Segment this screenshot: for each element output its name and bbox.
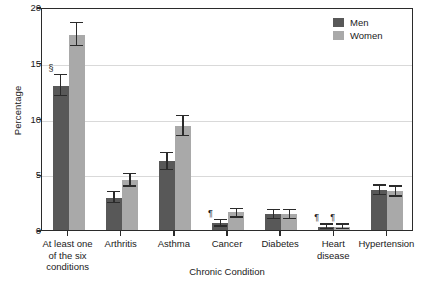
error-bar-cap-bottom: [176, 135, 189, 136]
bar-women[interactable]: [122, 180, 138, 230]
error-bar-cap-bottom: [373, 194, 386, 195]
error-bar-cap-bottom: [320, 228, 333, 229]
error-bar-cap-bottom: [389, 195, 402, 196]
bar-group: §: [53, 7, 85, 230]
legend-swatch-men-icon: [333, 18, 344, 27]
legend-swatch-women-icon: [333, 31, 344, 40]
error-bar-line: [182, 115, 183, 136]
footnote-marker: ¶: [208, 209, 213, 218]
error-bar-cap-bottom: [336, 228, 349, 229]
bar-men[interactable]: [53, 86, 69, 230]
x-category-label: Arthritis: [90, 238, 151, 250]
error-bar-cap-bottom: [214, 225, 227, 226]
bar-women[interactable]: [69, 35, 85, 230]
error-bar: [70, 22, 83, 47]
footnote-marker: §: [49, 64, 54, 73]
x-category-label: Cancer: [196, 238, 257, 250]
error-bar: [283, 209, 296, 219]
bar-group: ¶: [212, 7, 244, 230]
legend-label-women: Women: [350, 30, 383, 41]
bar-group: [106, 7, 138, 230]
error-bar: [123, 173, 136, 186]
bar-men[interactable]: [371, 190, 387, 230]
bar-chart-figure: Percentage 05101520 §¶¶¶ Chronic Conditi…: [0, 0, 426, 288]
x-tick-mark: [279, 231, 280, 236]
y-axis-tick-labels: 05101520: [0, 0, 41, 288]
y-tick-mark: [37, 175, 42, 176]
y-tick-mark: [37, 230, 42, 231]
x-tick-mark: [333, 231, 334, 236]
error-bar-cap-bottom: [70, 45, 83, 46]
y-tick-mark: [37, 63, 42, 64]
x-category-label: Hypertension: [356, 238, 417, 250]
legend-item-men[interactable]: Men: [333, 16, 383, 29]
error-bar-cap-bottom: [54, 95, 67, 96]
error-bar-cap-bottom: [160, 169, 173, 170]
chart-legend: Men Women: [333, 16, 383, 42]
error-bar: [267, 209, 280, 219]
bar-women[interactable]: [387, 191, 403, 230]
error-bar: [107, 191, 120, 203]
error-bar: [54, 74, 67, 96]
error-bar: [389, 185, 402, 196]
x-tick-mark: [67, 231, 68, 236]
error-bar: [230, 208, 243, 218]
error-bar: [336, 223, 349, 229]
x-tick-mark: [226, 231, 227, 236]
y-tick-mark: [37, 119, 42, 120]
error-bar-line: [76, 22, 77, 47]
error-bar-cap-bottom: [107, 202, 120, 203]
bar-group: [265, 7, 297, 230]
x-tick-mark: [120, 231, 121, 236]
x-tick-mark: [173, 231, 174, 236]
y-tick-mark: [37, 7, 42, 8]
x-category-label: Asthma: [143, 238, 204, 250]
x-tick-mark: [386, 231, 387, 236]
bar-women[interactable]: [175, 126, 191, 230]
error-bar-line: [60, 74, 61, 96]
legend-item-women[interactable]: Women: [333, 29, 383, 42]
x-category-label: At least one of the six conditions: [37, 238, 98, 273]
x-category-label: Heart disease: [303, 238, 364, 261]
legend-label-men: Men: [350, 17, 368, 28]
footnote-marker: ¶: [330, 213, 335, 222]
error-bar-line: [166, 152, 167, 170]
error-bar: [176, 115, 189, 136]
error-bar-cap-bottom: [283, 218, 296, 219]
x-category-label: Diabetes: [250, 238, 311, 250]
error-bar: [214, 219, 227, 227]
error-bar: [160, 152, 173, 170]
footnote-marker: ¶: [314, 213, 319, 222]
error-bar-cap-bottom: [230, 216, 243, 217]
bar-men[interactable]: [159, 161, 175, 230]
error-bar: [320, 223, 333, 229]
error-bar: [373, 184, 386, 195]
bar-group: [159, 7, 191, 230]
error-bar-cap-bottom: [123, 185, 136, 186]
error-bar-cap-bottom: [267, 218, 280, 219]
